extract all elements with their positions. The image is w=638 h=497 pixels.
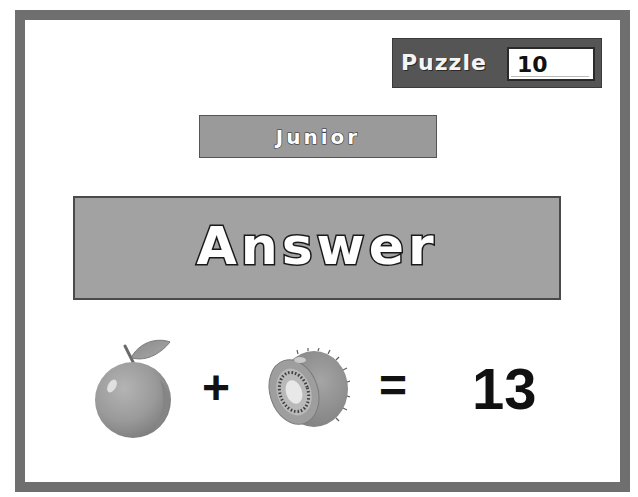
puzzle-label: Puzzle [401, 48, 487, 78]
puzzle-number-panel: Puzzle [392, 38, 602, 88]
equation-row: + [0, 330, 638, 440]
orange-icon [90, 336, 180, 440]
kiwi-icon [264, 348, 350, 430]
level-button[interactable]: Junior [199, 115, 437, 158]
input-underline [511, 76, 589, 77]
level-label: Junior [276, 125, 360, 149]
equals-operator: = [379, 362, 407, 410]
plus-operator: + [202, 364, 230, 412]
equation-result: 13 [472, 360, 537, 418]
answer-label: Answer [196, 216, 437, 276]
answer-button[interactable]: Answer [73, 196, 561, 300]
